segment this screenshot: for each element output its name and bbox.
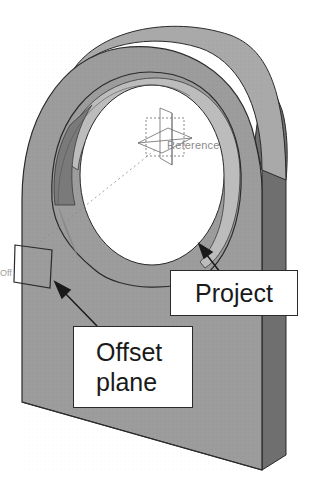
project-callout-text: Project	[195, 279, 273, 308]
offset-callout-line2: plane	[96, 367, 192, 397]
offset-callout-line1: Offset	[96, 337, 192, 367]
reference-label: Reference	[167, 139, 220, 151]
hole-opening	[80, 85, 224, 265]
offset-tag-label: Off	[0, 268, 12, 278]
offset-plane-callout: Offset plane	[73, 326, 193, 408]
project-callout: Project	[170, 270, 298, 316]
